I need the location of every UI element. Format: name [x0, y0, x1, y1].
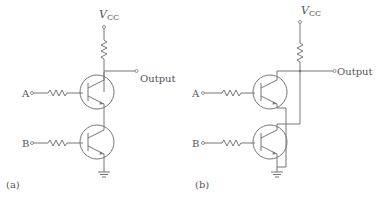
ground-icon-b: [271, 172, 283, 177]
input-a-label-b: A: [191, 88, 200, 99]
transistor-q2-b: [253, 124, 287, 172]
input-b-label-b: B: [192, 138, 199, 149]
vcc-terminal-b: [299, 21, 302, 24]
pullup-resistor-b: [277, 24, 303, 125]
panel-a: VCC Output A B (a): [6, 8, 176, 190]
circuit-diagrams: VCC Output A B (a) VCC: [0, 0, 387, 204]
base-resistor-a-a: [34, 90, 84, 96]
output-terminal-b: [333, 70, 336, 73]
input-a-terminal-b: [202, 92, 205, 95]
caption-b: (b): [195, 179, 209, 190]
vcc-label-b: VCC: [301, 4, 321, 18]
input-a-terminal-a: [31, 92, 34, 95]
input-a-label-a: A: [21, 88, 30, 99]
input-b-terminal-a: [31, 142, 34, 145]
ground-icon-a: [98, 172, 110, 177]
base-resistor-a-b: [205, 90, 256, 96]
transistor-q2-a: [80, 124, 114, 172]
output-label-a: Output: [140, 73, 176, 84]
vcc-label-a: VCC: [99, 8, 119, 22]
base-resistor-b-b: [205, 140, 256, 146]
output-label-b: Output: [337, 66, 373, 77]
caption-a: (a): [6, 179, 20, 190]
transistor-q1-b: [253, 71, 287, 167]
transistor-q1-a: [80, 72, 114, 124]
output-terminal-a: [135, 70, 138, 73]
input-b-label-a: B: [22, 138, 29, 149]
panel-b: VCC Output A B (b): [191, 4, 373, 190]
pullup-resistor-a: [101, 29, 107, 93]
vcc-terminal-a: [103, 26, 106, 29]
base-resistor-b-a: [34, 140, 84, 146]
diagram: VCC Output A B (a) VCC: [0, 0, 387, 204]
input-b-terminal-b: [202, 142, 205, 145]
